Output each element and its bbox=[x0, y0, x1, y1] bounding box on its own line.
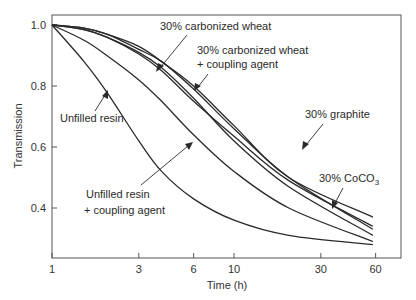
x-tick-label: 3 bbox=[136, 263, 142, 275]
label-carbonized-wheat-coupling-1: 30% carbonized wheat bbox=[197, 44, 308, 56]
label-graphite: 30% graphite bbox=[305, 108, 370, 120]
y-tick-label: 1.0 bbox=[31, 19, 46, 31]
arrow-cococ3 bbox=[335, 188, 343, 203]
label-carbonized-wheat: 30% carbonized wheat bbox=[160, 20, 271, 32]
label-carbonized-wheat-coupling-2: + coupling agent bbox=[197, 58, 278, 70]
transmission-chart: 0.40.60.81.0 136103060 30% carbonized wh… bbox=[0, 0, 416, 300]
y-axis-label: Transmission bbox=[12, 104, 24, 169]
y-tick-label: 0.4 bbox=[31, 202, 46, 214]
y-axis: 0.40.60.81.0 bbox=[31, 19, 57, 214]
x-tick-label: 30 bbox=[315, 263, 327, 275]
y-tick-label: 0.8 bbox=[31, 80, 46, 92]
arrow-unfilled-resin bbox=[95, 95, 105, 111]
x-tick-label: 10 bbox=[228, 263, 240, 275]
x-tick-label: 1 bbox=[49, 263, 55, 275]
arrowhead-icon bbox=[185, 142, 193, 150]
x-axis: 136103060 bbox=[49, 253, 382, 275]
annotations: 30% carbonized wheat 30% carbonized whea… bbox=[60, 20, 380, 216]
label-unfilled-resin: Unfilled resin bbox=[60, 112, 124, 124]
label-unfilled-resin-coupling-2: + coupling agent bbox=[84, 204, 165, 216]
arrow-graphite bbox=[306, 124, 323, 145]
label-cococ3-subscript: 3 bbox=[375, 178, 380, 187]
arrow-unfilled-resin-coupling bbox=[141, 146, 188, 185]
y-tick-label: 0.6 bbox=[31, 141, 46, 153]
arrow-carbonized-wheat-coupling bbox=[198, 74, 208, 87]
x-tick-label: 6 bbox=[191, 263, 197, 275]
label-cococ3: 30% CoCO3 bbox=[319, 172, 380, 187]
label-unfilled-resin-coupling-1: Unfilled resin bbox=[86, 188, 150, 200]
x-axis-label: Time (h) bbox=[207, 279, 248, 291]
x-tick-label: 60 bbox=[369, 263, 381, 275]
arrow-carbonized-wheat bbox=[160, 35, 187, 68]
label-cococ3-main: 30% CoCO bbox=[319, 172, 375, 184]
